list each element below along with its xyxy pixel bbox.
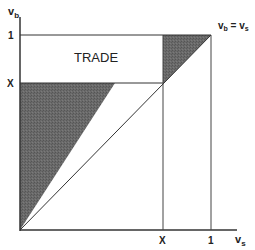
y-tick-1: 1 [8,30,14,41]
y-tick-x: X [7,78,14,89]
trade-region-label: TRADE [74,50,118,65]
x-tick-1: 1 [208,235,214,246]
shaded-region-lower [20,83,115,230]
y-axis-label: vb [8,5,19,20]
trade-region-diagram: vb 1 X X 1 vs vb = vs TRADE [0,0,255,250]
diagonal-label: vb = vs [218,20,249,32]
x-axis-label: vs [235,233,246,248]
x-tick-x: X [159,235,166,246]
